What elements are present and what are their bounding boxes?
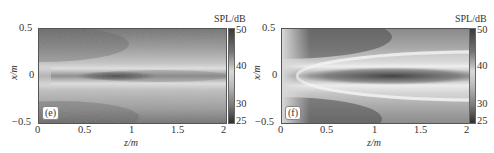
x-tick: 0 — [35, 125, 40, 136]
y-tick: 0 — [29, 70, 34, 81]
colorbar-tick: 40 — [236, 61, 247, 72]
panel-e: x/m 0.5 0 −0.5 — [0, 0, 247, 153]
colorbar-tick: 30 — [477, 99, 488, 110]
x-tick: 0.5 — [78, 125, 91, 136]
x-axis-label: z/m — [367, 137, 381, 148]
x-axis-label: z/m — [124, 137, 138, 148]
x-tick: 1 — [372, 125, 377, 136]
y-tick: 0.5 — [19, 23, 32, 34]
colorbar-tick: 50 — [236, 25, 247, 36]
x-tick: 1.5 — [414, 125, 427, 136]
colorbar-tick: 50 — [477, 25, 488, 36]
x-tick: 1.5 — [171, 125, 184, 136]
colorbar-tick: 30 — [236, 99, 247, 110]
y-tick: −0.5 — [255, 117, 274, 128]
x-tick: 0.5 — [320, 125, 333, 136]
colorbar-tick: 25 — [477, 116, 488, 127]
x-tick: 0 — [278, 125, 283, 136]
y-axis-label: x/m — [8, 65, 19, 79]
x-tick: 2 — [221, 125, 226, 136]
panel-f: x/m 0.5 0 −0.5 — [247, 0, 494, 153]
colorbar — [469, 28, 476, 124]
y-tick: −0.5 — [12, 117, 31, 128]
heatmap-plot: (e) — [38, 28, 227, 124]
colorbar-title: SPL/dB — [455, 13, 487, 24]
colorbar-tick: 40 — [477, 61, 488, 72]
y-axis-label: x/m — [251, 65, 262, 79]
colorbar-title: SPL/dB — [214, 13, 246, 24]
y-tick: 0 — [272, 70, 277, 81]
x-tick: 2 — [464, 125, 469, 136]
colorbar — [228, 28, 235, 124]
panel-label: (f) — [285, 106, 301, 120]
heatmap-plot: (f) — [281, 28, 470, 124]
colorbar-tick: 25 — [236, 116, 247, 127]
y-tick: 0.5 — [262, 23, 275, 34]
x-tick: 1 — [129, 125, 134, 136]
panel-label: (e) — [42, 106, 59, 120]
